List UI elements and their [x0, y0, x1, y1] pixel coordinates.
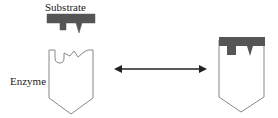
double-arrow-icon: [114, 65, 207, 73]
substrate-shape: [47, 14, 95, 33]
enzyme-substrate-diagram: [0, 0, 278, 118]
enzyme-substrate-complex: [219, 37, 265, 112]
enzyme-shape: [49, 50, 93, 114]
